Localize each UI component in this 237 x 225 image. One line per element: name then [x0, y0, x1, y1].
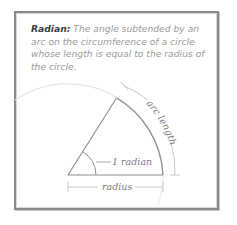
angle-label: 1 radian: [112, 156, 152, 167]
radian-diagram: 1 radian radius arc length: [0, 0, 237, 225]
angle-arc-icon: [83, 152, 97, 176]
second-radius-line: [68, 98, 117, 175]
faint-circle-arc-lower: [158, 175, 163, 205]
arc-length-label: arc length: [144, 97, 179, 146]
radius-label: radius: [102, 181, 132, 192]
